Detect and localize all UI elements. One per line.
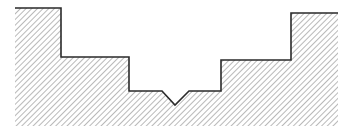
cross-section-diagram: [0, 0, 348, 134]
diagram-canvas: [0, 0, 348, 134]
hatched-material-region: [15, 8, 338, 126]
